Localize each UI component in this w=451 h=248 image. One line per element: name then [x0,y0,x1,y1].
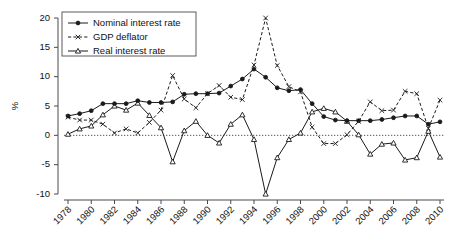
y-tick-label: -5 [42,158,50,169]
x-tick-label: 1992 [213,204,236,227]
series-nominal-interest-rate-marker [426,122,430,126]
series-real-interest-rate-marker [437,154,442,159]
x-tick-label: 2004 [353,204,376,227]
series-nominal-interest-rate-marker [299,88,303,92]
series-real-interest-rate-marker [298,130,303,135]
y-tick-label: 0 [45,129,50,140]
series-real-interest-rate-marker [321,106,326,111]
x-tick-label: 2006 [376,204,399,227]
series-nominal-interest-rate-marker [380,118,384,122]
series-real-interest-rate-marker [263,191,268,196]
series-real-interest-rate-marker [170,159,175,164]
x-tick-label: 1982 [97,204,120,227]
series-nominal-interest-rate-marker [136,99,140,103]
series-real-interest-rate-marker [414,155,419,160]
series-nominal-interest-rate-marker [415,114,419,118]
y-tick-label: 10 [39,70,50,81]
series-nominal-interest-rate-marker [113,102,117,106]
x-tick-label: 2002 [330,204,353,227]
series-nominal-interest-rate-marker [78,112,82,116]
legend-label-1: Nominal interest rate [93,17,181,28]
y-tick-label: 20 [39,12,50,23]
legend-label-2: GDP deflator [93,31,148,42]
x-tick-label: 1990 [190,204,213,227]
series-real-interest-rate-marker [65,132,70,137]
series-nominal-interest-rate-marker [171,100,175,104]
series-nominal-interest-rate-marker [124,102,128,106]
x-tick-label: 1984 [120,204,143,227]
series-nominal-interest-rate-marker [310,102,314,106]
series-nominal-interest-rate-marker [438,120,442,124]
series-nominal-interest-rate-marker [217,91,221,95]
series-nominal-interest-rate-marker [403,114,407,118]
series-nominal-interest-rate-marker [147,101,151,105]
series-real-interest-rate-marker [426,129,431,134]
series-nominal-interest-rate-marker [206,92,210,96]
chart-canvas: 20151050-5-10%19781980198219841986198819… [0,0,451,248]
x-tick-label: 2008 [399,204,422,227]
series-nominal-interest-rate-marker [275,86,279,90]
series-nominal-interest-rate-marker [333,118,337,122]
series-nominal-interest-rate-marker [368,119,372,123]
legend-marker-1 [76,21,80,25]
x-tick-label: 1998 [283,204,306,227]
x-tick-label: 2000 [306,204,329,227]
x-tick-label: 1996 [260,204,283,227]
x-tick-label: 1988 [167,204,190,227]
y-tick-label: -10 [36,188,50,199]
series-nominal-interest-rate-marker [264,75,268,79]
series-nominal-interest-rate-marker [229,84,233,88]
series-real-interest-rate-marker [286,137,291,142]
x-tick-label: 2010 [423,204,446,227]
y-tick-label: 15 [39,41,50,52]
series-real-interest-rate-marker [217,140,222,145]
series-real-interest-rate-marker [275,155,280,160]
x-tick-label: 1980 [74,204,97,227]
series-nominal-interest-rate-marker [66,114,70,118]
legend-label-3: Real interest rate [93,45,165,56]
series-nominal-interest-rate-marker [240,77,244,81]
series-nominal-interest-rate-marker [345,119,349,123]
series-nominal-interest-rate-marker [287,89,291,93]
series-real-interest-rate-marker [193,119,198,124]
interest-rate-chart: 20151050-5-10%19781980198219841986198819… [0,0,451,248]
series-nominal-interest-rate-marker [194,92,198,96]
series-real-interest-rate-marker [240,112,245,117]
y-tick-label: 5 [45,100,50,111]
series-nominal-interest-rate-marker [182,92,186,96]
series-nominal-interest-rate-marker [159,101,163,105]
series-nominal-interest-rate-line [68,69,440,124]
x-tick-label: 1978 [51,204,74,227]
series-nominal-interest-rate-marker [357,119,361,123]
series-nominal-interest-rate-marker [89,109,93,113]
series-nominal-interest-rate-marker [101,102,105,106]
y-axis-title: % [9,101,20,110]
series-nominal-interest-rate-marker [392,116,396,120]
series-real-interest-rate-line [68,103,440,194]
series-nominal-interest-rate-marker [322,115,326,119]
x-tick-label: 1994 [237,204,260,227]
x-tick-label: 1986 [144,204,167,227]
series-nominal-interest-rate-marker [252,67,256,71]
series-real-interest-rate-marker [251,137,256,142]
